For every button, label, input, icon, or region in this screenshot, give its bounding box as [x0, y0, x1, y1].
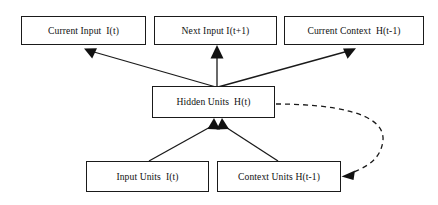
node-hidden-units[interactable]: Hidden Units H(t)	[152, 86, 275, 118]
edge-line	[149, 126, 212, 161]
edge-hidden-to-current-input	[84, 48, 216, 87]
edge-line	[218, 50, 352, 87]
arrowhead-icon	[208, 118, 221, 130]
node-context-units-label: Context Units H(t-1)	[238, 172, 320, 182]
edge-context-units-to-hidden	[217, 118, 279, 161]
diagram-canvas: Current Input I(t) Next Input I(t+1) Cur…	[0, 0, 438, 205]
edge-input-units-to-hidden	[149, 118, 220, 161]
edge-hidden-to-current-context	[218, 48, 356, 87]
edge-hidden-to-next-input	[211, 45, 224, 87]
arrowhead-icon	[342, 171, 356, 181]
edge-line	[87, 50, 216, 87]
node-next-input[interactable]: Next Input I(t+1)	[154, 16, 277, 45]
node-input-units-label: Input Units I(t)	[116, 172, 178, 182]
node-current-input-label: Current Input I(t)	[48, 26, 119, 36]
node-hidden-units-label: Hidden Units H(t)	[176, 97, 250, 107]
arrowhead-icon	[343, 48, 356, 59]
arrowhead-icon	[211, 45, 224, 59]
edge-line	[224, 126, 278, 161]
node-context-units[interactable]: Context Units H(t-1)	[217, 161, 341, 192]
arrowhead-icon	[84, 48, 97, 58]
node-current-context-label: Current Context H(t-1)	[307, 26, 400, 36]
node-next-input-label: Next Input I(t+1)	[182, 26, 250, 36]
arrowhead-icon	[217, 118, 230, 130]
node-current-context[interactable]: Current Context H(t-1)	[284, 16, 424, 45]
node-input-units[interactable]: Input Units I(t)	[86, 161, 209, 192]
node-current-input[interactable]: Current Input I(t)	[21, 16, 146, 45]
